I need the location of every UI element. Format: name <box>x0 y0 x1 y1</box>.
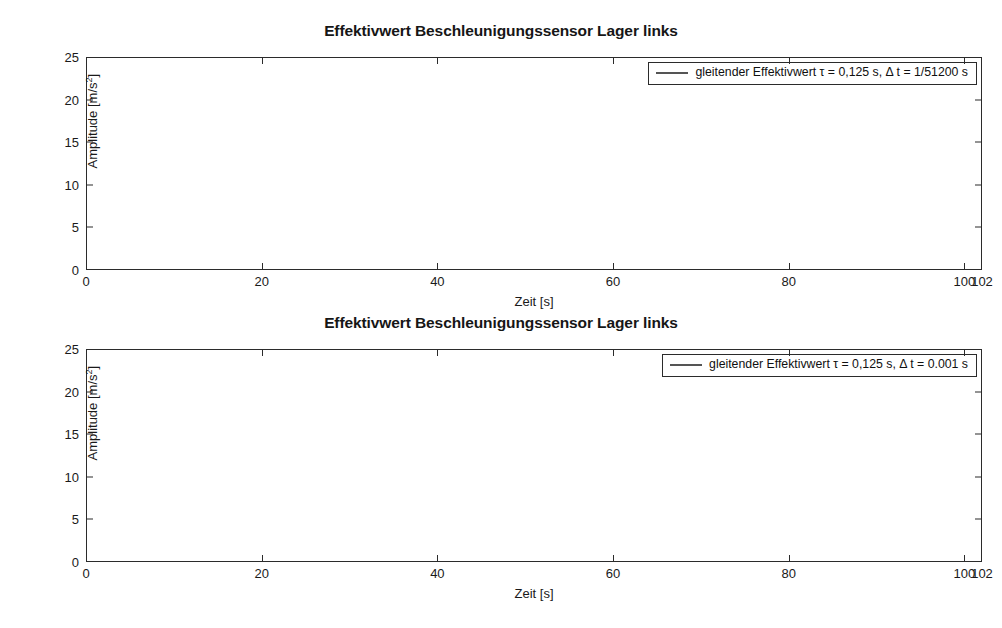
plot-frame <box>86 349 982 562</box>
y-tick-mark <box>975 519 982 520</box>
x-tick-mark <box>613 263 614 270</box>
x-tick-mark <box>613 555 614 562</box>
plot-frame <box>86 57 982 270</box>
y-tick-mark <box>975 227 982 228</box>
legend-line-icon <box>656 72 688 74</box>
y-tick-label: 25 <box>65 342 79 357</box>
x-tick-label: 80 <box>782 274 796 289</box>
chart-title: Effektivwert Beschleunigungssensor Lager… <box>0 314 1002 332</box>
figure-bottom: Effektivwert Beschleunigungssensor Lager… <box>0 300 1002 600</box>
y-tick-label: 20 <box>65 384 79 399</box>
y-tick-mark <box>975 434 982 435</box>
x-tick-mark <box>789 555 790 562</box>
x-tick-label: 40 <box>430 566 444 581</box>
y-tick-label: 10 <box>65 177 79 192</box>
x-tick-label: 102 <box>971 566 993 581</box>
plot-area-top: Amplitude [m/s2] Zeit [s] gleitender Eff… <box>86 57 982 270</box>
x-tick-label: 60 <box>606 566 620 581</box>
x-tick-mark <box>437 263 438 270</box>
y-axis-label: Amplitude [m/s2] <box>84 61 100 181</box>
x-tick-label: 0 <box>82 274 89 289</box>
x-tick-mark <box>789 57 790 64</box>
y-tick-label: 0 <box>72 263 79 278</box>
x-tick-mark <box>262 263 263 270</box>
plot-area-bottom: Amplitude [m/s2] Zeit [s] gleitender Eff… <box>86 349 982 562</box>
x-tick-label: 20 <box>254 566 268 581</box>
y-tick-mark <box>86 434 93 435</box>
y-tick-mark <box>86 227 93 228</box>
x-tick-mark <box>613 349 614 356</box>
x-tick-label: 80 <box>782 566 796 581</box>
y-tick-mark <box>86 391 93 392</box>
x-tick-label: 60 <box>606 274 620 289</box>
x-tick-mark <box>964 263 965 270</box>
x-tick-mark <box>262 57 263 64</box>
y-tick-label: 15 <box>65 427 79 442</box>
x-tick-mark <box>964 349 965 356</box>
y-tick-mark <box>975 391 982 392</box>
x-axis-label: Zeit [s] <box>86 586 982 601</box>
y-tick-label: 0 <box>72 555 79 570</box>
y-tick-label: 25 <box>65 50 79 65</box>
x-tick-mark <box>964 57 965 64</box>
y-axis-label: Amplitude [m/s2] <box>84 353 100 473</box>
y-tick-mark <box>975 142 982 143</box>
x-tick-mark <box>262 349 263 356</box>
y-tick-label: 20 <box>65 92 79 107</box>
y-tick-mark <box>86 184 93 185</box>
x-tick-mark <box>262 555 263 562</box>
legend-top: gleitender Effektivwert τ = 0,125 s, Δ t… <box>648 62 977 85</box>
legend-label: gleitender Effektivwert τ = 0,125 s, Δ t… <box>709 358 968 372</box>
legend-bottom: gleitender Effektivwert τ = 0,125 s, Δ t… <box>662 354 977 377</box>
y-tick-mark <box>86 476 93 477</box>
legend-line-icon <box>670 364 702 366</box>
x-tick-mark <box>437 57 438 64</box>
x-tick-mark <box>613 57 614 64</box>
x-tick-label: 20 <box>254 274 268 289</box>
chart-title: Effektivwert Beschleunigungssensor Lager… <box>0 22 1002 40</box>
x-tick-mark <box>964 555 965 562</box>
y-tick-mark <box>86 99 93 100</box>
y-tick-mark <box>975 476 982 477</box>
x-tick-label: 0 <box>82 566 89 581</box>
y-tick-mark <box>86 519 93 520</box>
y-tick-label: 5 <box>72 220 79 235</box>
figure-top: Effektivwert Beschleunigungssensor Lager… <box>0 8 1002 308</box>
legend-label: gleitender Effektivwert τ = 0,125 s, Δ t… <box>695 66 968 80</box>
y-tick-label: 10 <box>65 469 79 484</box>
y-tick-mark <box>975 184 982 185</box>
x-tick-label: 102 <box>971 274 993 289</box>
x-tick-mark <box>437 349 438 356</box>
y-tick-mark <box>86 142 93 143</box>
x-tick-mark <box>789 263 790 270</box>
y-tick-label: 15 <box>65 135 79 150</box>
x-tick-label: 40 <box>430 274 444 289</box>
y-tick-label: 5 <box>72 512 79 527</box>
x-tick-mark <box>437 555 438 562</box>
y-tick-mark <box>975 99 982 100</box>
x-tick-mark <box>789 349 790 356</box>
